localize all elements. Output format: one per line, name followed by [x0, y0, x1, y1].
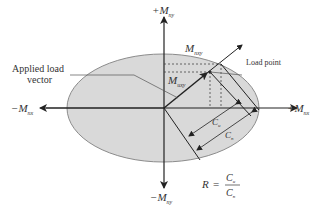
pos-my-label: +Mny — [152, 4, 175, 18]
mnxy-label: Mnxy — [184, 42, 203, 56]
formula-numerator: Cu — [226, 172, 236, 184]
formula-lhs: R — [201, 178, 209, 190]
applied-load-label-1: Applied load — [12, 63, 64, 74]
load-point-label: Load point — [246, 58, 282, 67]
neg-my-label: −Mny — [150, 191, 173, 205]
ratio-formula: R = Cu Cn — [201, 172, 240, 199]
applied-load-label-2: vector — [27, 74, 53, 85]
pos-mx-label: +Mnx — [287, 102, 310, 116]
neg-mx-label: −Mnx — [11, 102, 34, 116]
formula-denominator: Cn — [226, 187, 236, 199]
interaction-diagram: +Mny −Mny +Mnx −Mnx Applied load vector … — [0, 0, 316, 213]
formula-equals: = — [213, 178, 219, 190]
